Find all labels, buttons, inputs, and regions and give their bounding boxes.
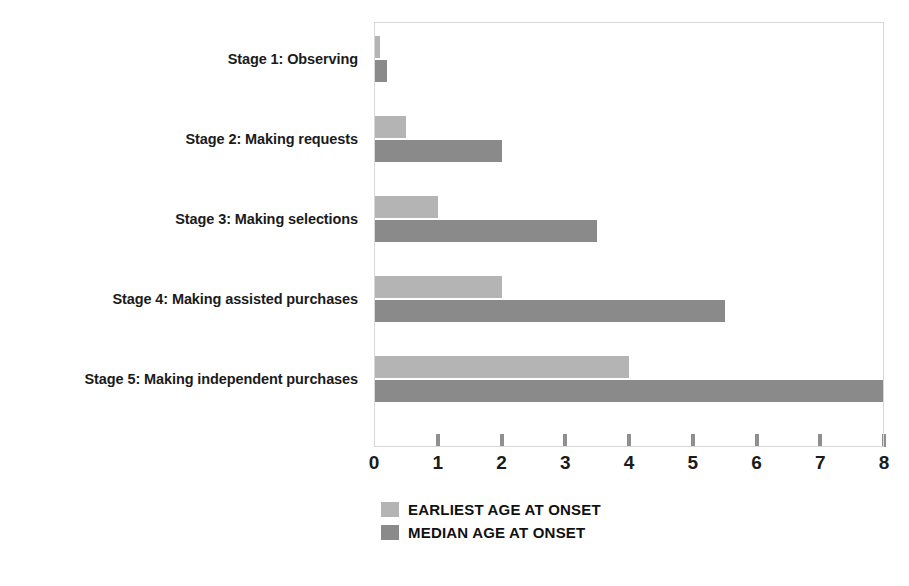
category-label: Stage 4: Making assisted purchases — [112, 291, 358, 307]
category-label: Stage 3: Making selections — [175, 211, 358, 227]
category-label: Stage 5: Making independent purchases — [85, 371, 358, 387]
bar — [374, 300, 725, 322]
bar — [374, 356, 629, 378]
x-axis-tick-mark — [818, 434, 822, 447]
x-axis-tick-label: 7 — [815, 452, 826, 474]
legend-color-swatch — [381, 502, 399, 517]
bar — [374, 116, 406, 138]
x-axis-tick-label: 2 — [496, 452, 507, 474]
x-axis-tick-label: 8 — [879, 452, 890, 474]
x-axis-tick-label: 0 — [369, 452, 380, 474]
legend-color-swatch — [381, 525, 399, 540]
bar — [374, 36, 380, 58]
x-axis-tick-mark — [691, 434, 695, 447]
chart-legend: EARLIEST AGE AT ONSETMEDIAN AGE AT ONSET — [381, 499, 601, 545]
legend-item: EARLIEST AGE AT ONSET — [381, 499, 601, 520]
x-axis-tick-label: 4 — [624, 452, 635, 474]
bar — [374, 380, 884, 402]
bar — [374, 60, 387, 82]
bar — [374, 220, 597, 242]
legend-label: MEDIAN AGE AT ONSET — [408, 524, 585, 541]
plot-area — [374, 22, 884, 447]
x-axis-tick-mark — [563, 434, 567, 447]
x-axis-tick-mark — [500, 434, 504, 447]
bar — [374, 276, 502, 298]
category-label: Stage 1: Observing — [228, 51, 358, 67]
x-axis-tick-label: 1 — [432, 452, 443, 474]
x-axis-tick-labels: 012345678 — [374, 452, 884, 480]
category-label: Stage 2: Making requests — [186, 131, 358, 147]
bar — [374, 140, 502, 162]
legend-label: EARLIEST AGE AT ONSET — [408, 501, 601, 518]
x-axis-tick-mark — [755, 434, 759, 447]
chart-page: Stage 1: ObservingStage 2: Making reques… — [0, 0, 909, 586]
x-axis-tick-mark — [627, 434, 631, 447]
x-axis-tick-label: 6 — [751, 452, 762, 474]
x-axis-tick-mark — [882, 434, 886, 447]
category-axis-labels: Stage 1: ObservingStage 2: Making reques… — [0, 22, 366, 447]
x-axis-tick-label: 5 — [687, 452, 698, 474]
x-axis-tick-mark — [436, 434, 440, 447]
legend-item: MEDIAN AGE AT ONSET — [381, 522, 601, 543]
x-axis-tick-label: 3 — [560, 452, 571, 474]
bar — [374, 196, 438, 218]
